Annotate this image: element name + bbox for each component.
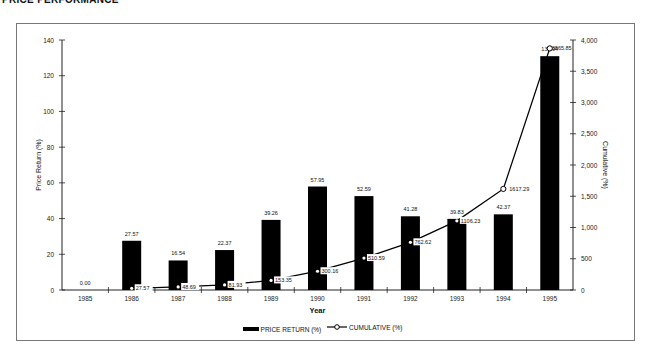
cumulative-value-label: 3865.85 bbox=[552, 45, 572, 51]
cumulative-value-label: 762.62 bbox=[414, 239, 431, 245]
y-tick-label: 80 bbox=[47, 144, 55, 151]
cumulative-marker bbox=[501, 186, 506, 191]
cumulative-value-label: 81.93 bbox=[229, 282, 243, 288]
combo-chart: 02040608010012014005001,0001,5002,0002,5… bbox=[0, 0, 645, 363]
y2-tick-label: 1,500 bbox=[581, 193, 598, 200]
cumulative-value-label: 48.69 bbox=[182, 284, 196, 290]
legend-item-price-return: PRICE RETURN (%) bbox=[243, 326, 322, 333]
bar-value-label: 52.59 bbox=[357, 186, 371, 192]
y2-tick-label: 2,000 bbox=[581, 162, 598, 169]
x-tick-label: 1989 bbox=[264, 295, 279, 302]
y2-tick-label: 0 bbox=[581, 287, 585, 294]
line-marker-swatch-icon bbox=[327, 323, 347, 331]
bar-price-return bbox=[354, 196, 373, 290]
bar-value-label: 22.37 bbox=[218, 240, 232, 246]
cumulative-line bbox=[132, 48, 550, 288]
cumulative-marker bbox=[223, 283, 226, 286]
y2-axis-title: Cumulative (%) bbox=[601, 141, 609, 189]
y-tick-label: 40 bbox=[47, 215, 55, 222]
bar-value-label: 39.26 bbox=[264, 210, 278, 216]
bar-price-return bbox=[122, 241, 141, 290]
y2-tick-label: 3,500 bbox=[581, 68, 598, 75]
x-tick-label: 1992 bbox=[403, 295, 418, 302]
x-tick-label: 1987 bbox=[171, 295, 186, 302]
bar-value-label: 41.28 bbox=[404, 206, 418, 212]
bar-price-return bbox=[401, 216, 420, 290]
y-axis-title: Price Return (%) bbox=[35, 139, 43, 191]
x-tick-label: 1988 bbox=[217, 295, 232, 302]
cumulative-value-label: 27.57 bbox=[136, 285, 150, 291]
cumulative-marker bbox=[409, 241, 412, 244]
cumulative-value-label: 300.16 bbox=[322, 268, 339, 274]
bar-swatch-icon bbox=[243, 327, 259, 331]
bar-value-label: 0.00 bbox=[80, 280, 91, 286]
cumulative-value-label: 1106.23 bbox=[461, 218, 480, 224]
cumulative-value-label: 1617.29 bbox=[509, 186, 529, 192]
bar-value-label: 39.83 bbox=[450, 209, 464, 215]
legend-item-cumulative: CUMULATIVE (%) bbox=[327, 323, 402, 331]
y2-tick-label: 4,000 bbox=[581, 37, 598, 44]
y-tick-label: 0 bbox=[50, 287, 54, 294]
cumulative-marker bbox=[130, 287, 133, 290]
y-tick-label: 120 bbox=[43, 72, 54, 79]
bar-price-return bbox=[494, 214, 513, 290]
x-tick-label: 1991 bbox=[357, 295, 372, 302]
bar-price-return bbox=[308, 187, 327, 290]
bar-value-label: 16.54 bbox=[171, 250, 185, 256]
cumulative-value-label: 153.35 bbox=[275, 277, 292, 283]
y2-tick-label: 1,000 bbox=[581, 224, 598, 231]
bar-price-return bbox=[447, 219, 466, 290]
cumulative-value-label: 510.59 bbox=[368, 255, 385, 261]
y2-tick-label: 500 bbox=[581, 255, 592, 262]
y-tick-label: 140 bbox=[43, 37, 54, 44]
x-tick-label: 1985 bbox=[78, 295, 93, 302]
y-tick-label: 60 bbox=[47, 179, 55, 186]
x-tick-label: 1995 bbox=[543, 295, 558, 302]
y2-tick-label: 2,500 bbox=[581, 130, 598, 137]
cumulative-marker bbox=[269, 279, 272, 282]
bar-value-label: 27.57 bbox=[125, 231, 139, 237]
cumulative-marker bbox=[177, 285, 180, 288]
legend-label: CUMULATIVE (%) bbox=[349, 324, 402, 331]
y-tick-label: 100 bbox=[43, 108, 54, 115]
x-tick-label: 1986 bbox=[124, 295, 139, 302]
x-tick-label: 1994 bbox=[496, 295, 511, 302]
legend-label: PRICE RETURN (%) bbox=[261, 326, 322, 333]
cumulative-marker bbox=[362, 256, 365, 259]
x-tick-label: 1990 bbox=[310, 295, 325, 302]
chart-legend: PRICE RETURN (%) CUMULATIVE (%) bbox=[0, 323, 645, 333]
y2-tick-label: 3,000 bbox=[581, 99, 598, 106]
bar-price-return bbox=[540, 56, 559, 290]
cumulative-marker bbox=[455, 219, 458, 222]
x-axis-title: Year bbox=[310, 306, 326, 315]
bar-value-label: 57.95 bbox=[311, 177, 325, 183]
bar-value-label: 42.37 bbox=[496, 204, 510, 210]
x-tick-label: 1993 bbox=[450, 295, 465, 302]
y-tick-label: 20 bbox=[47, 251, 55, 258]
cumulative-marker bbox=[316, 270, 319, 273]
